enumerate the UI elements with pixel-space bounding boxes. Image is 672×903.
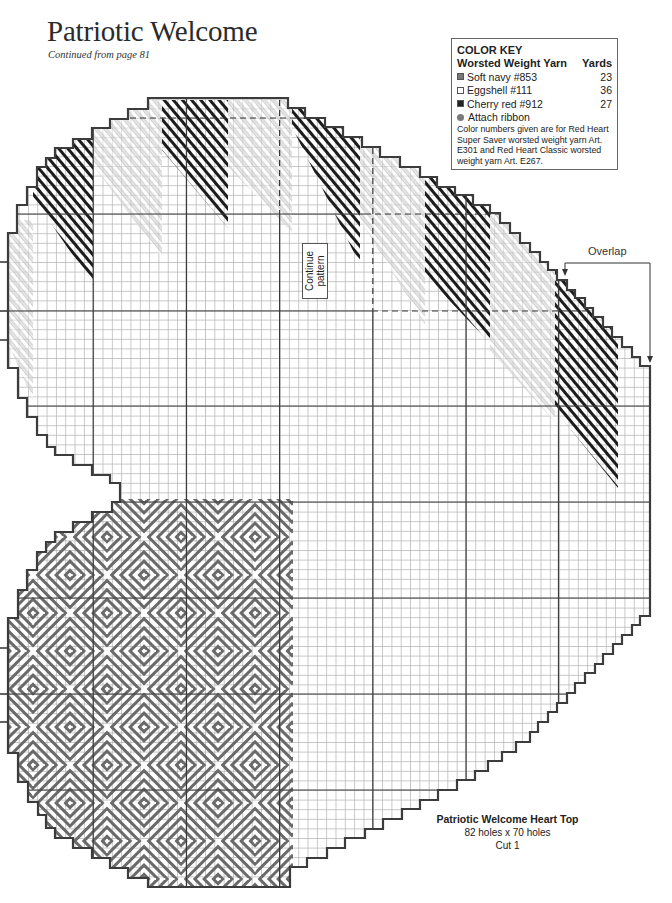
arrow-down-icon (647, 356, 653, 363)
eggshell-swatch-icon (457, 87, 464, 94)
edge-tick-marks (0, 262, 8, 722)
note-line: Super Saver worsted weight yarn Art. (457, 135, 612, 146)
color-key-title: COLOR KEY (457, 43, 612, 57)
color-key-item-cherry-red: Cherry red #912 27 (457, 97, 612, 111)
page-title: Patriotic Welcome (47, 15, 257, 48)
cherry-red-swatch-icon (457, 100, 464, 107)
color-yards: 23 (600, 71, 612, 83)
arrow-down-icon (562, 269, 568, 276)
color-key-item-eggshell: Eggshell #111 36 (457, 84, 612, 98)
color-yards: 36 (600, 84, 612, 96)
page-subtitle: Continued from page 81 (48, 49, 150, 60)
caption-title: Patriotic Welcome Heart Top (420, 813, 595, 826)
color-key-header: Worsted Weight Yarn Yards (457, 57, 612, 71)
note-line: weight yarn Art. E267. (457, 156, 612, 167)
ribbon-dot-icon (457, 114, 464, 121)
continue-pattern-line-1: Continue (304, 244, 315, 298)
navy-swatch-icon (457, 73, 464, 80)
note-line: Color numbers given are for Red Heart (457, 124, 612, 135)
color-name: Eggshell #111 (467, 84, 532, 96)
continue-pattern-label: Continue pattern (302, 243, 328, 299)
color-yards: 27 (600, 98, 612, 110)
color-key: COLOR KEY Worsted Weight Yarn Yards Soft… (451, 38, 618, 170)
caption-size: 82 holes x 70 holes (420, 826, 595, 839)
note-line: E301 and Red Heart Classic worsted (457, 145, 612, 156)
continue-pattern-line-2: pattern (315, 244, 326, 298)
eggshell-stripe-band (0, 220, 33, 400)
caption-cut: Cut 1 (420, 839, 595, 852)
color-name: Soft navy #853 (467, 71, 537, 83)
color-key-note: Color numbers given are for Red Heart Su… (457, 124, 612, 166)
color-key-item-ribbon: Attach ribbon (457, 111, 612, 125)
yarn-header: Worsted Weight Yarn (457, 57, 567, 69)
ribbon-label: Attach ribbon (468, 111, 530, 123)
page: Patriotic Welcome Continued from page 81… (0, 0, 672, 903)
color-key-item-soft-navy: Soft navy #853 23 (457, 70, 612, 84)
color-name: Cherry red #912 (467, 98, 543, 110)
chart-caption: Patriotic Welcome Heart Top 82 holes x 7… (420, 813, 595, 852)
overlap-label: Overlap (588, 245, 627, 257)
navy-stitch-area (0, 499, 293, 899)
yards-header: Yards (582, 57, 612, 69)
